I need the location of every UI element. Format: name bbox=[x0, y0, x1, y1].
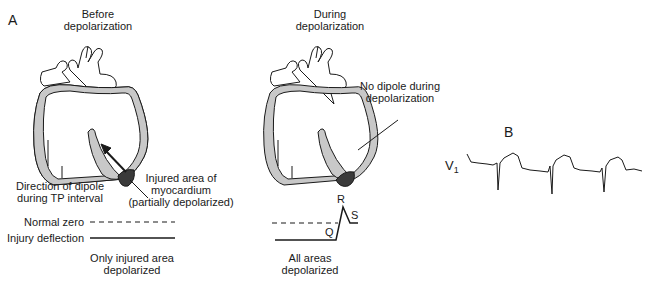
injured-area-label: Injured area of myocardium (partially de… bbox=[126, 172, 236, 208]
normal-zero-label: Normal zero bbox=[10, 216, 84, 228]
injury-deflection-label: Injury deflection bbox=[2, 232, 84, 244]
right-heart-illustration bbox=[264, 46, 398, 186]
right-caption: All areas depolarized bbox=[270, 252, 350, 276]
ecg-lead-label: V1 bbox=[445, 160, 459, 176]
wave-q-label: Q bbox=[325, 226, 334, 238]
dipole-direction-label: Direction of dipole during TP interval bbox=[10, 180, 110, 204]
right-qrs-diagram bbox=[272, 207, 358, 240]
left-baseline-diagram bbox=[90, 222, 175, 238]
left-caption: Only injured area depolarized bbox=[84, 252, 180, 276]
ecg-trace-v1 bbox=[467, 153, 642, 194]
wave-r-label: R bbox=[337, 193, 345, 205]
no-dipole-label: No dipole during depolarization bbox=[350, 80, 450, 104]
wave-s-label: S bbox=[351, 209, 358, 221]
diagram-canvas bbox=[0, 0, 652, 282]
